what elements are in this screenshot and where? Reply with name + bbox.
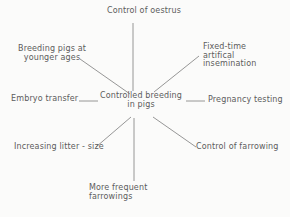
node-embryo-transfer: Embryo transfer xyxy=(11,95,78,104)
node-control-of-farrowing: Control of farrowing xyxy=(196,143,279,152)
spider-diagram: Control of oestrus Fixed-time artifical … xyxy=(0,0,290,217)
connector-bottom-right xyxy=(153,117,196,147)
connector-top-right xyxy=(154,56,199,92)
node-center-controlled-breeding-in-pigs: Controlled breeding in pigs xyxy=(99,92,183,109)
node-control-of-oestrus: Control of oestrus xyxy=(98,7,190,16)
node-increasing-litter-size: Increasing litter - size xyxy=(14,143,104,152)
node-fixed-time-artificial-insemination: Fixed-time artifical insemination xyxy=(203,43,257,69)
node-more-frequent-farrowings: More frequent farrowings xyxy=(89,184,147,201)
connector-top-left xyxy=(80,59,130,94)
node-breeding-pigs-at-younger-ages: Breeding pigs at younger ages xyxy=(16,45,88,62)
node-pregnancy-testing: Pregnancy testing xyxy=(208,96,283,105)
